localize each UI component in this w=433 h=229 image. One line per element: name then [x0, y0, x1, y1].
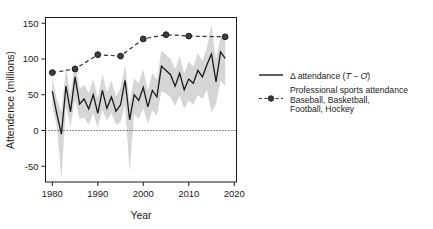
attendance-line-chart: -50050100150 19801990200020102020 Attend… [0, 0, 433, 229]
x-axis-ticks: 19801990200020102020 [42, 182, 245, 199]
data-point-marker [72, 66, 78, 72]
data-point-marker [49, 70, 55, 76]
legend-label-delta-attendance: Δ attendance (T̄ − Ō) [290, 71, 370, 81]
x-tick-label: 1980 [42, 188, 63, 199]
plot-area [46, 25, 237, 181]
data-point-marker [222, 34, 228, 40]
legend-marker-icon [268, 96, 274, 102]
y-axis-ticks: -50050100150 [23, 18, 46, 172]
legend-dashed-line-marker-key [259, 96, 283, 102]
y-tick-label: 50 [28, 89, 39, 100]
y-axis-title: Attendence (millions) [4, 51, 16, 149]
y-tick-label: -50 [25, 161, 39, 172]
chart-figure: -50050100150 19801990200020102020 Attend… [0, 0, 433, 229]
data-point-marker [186, 33, 192, 39]
data-point-marker [163, 32, 169, 38]
legend: Δ attendance (T̄ − Ō) Professional spor… [259, 71, 408, 115]
x-tick-label: 2000 [133, 188, 154, 199]
data-point-marker [118, 53, 124, 59]
data-point-marker [95, 52, 101, 58]
uncertainty-band [52, 25, 225, 181]
data-point-marker [140, 36, 146, 42]
legend-label-pro-sports-line3: Football, Hockey [290, 104, 355, 114]
legend-label-pro-sports-line1: Professional sports attendance [290, 85, 408, 95]
x-tick-label: 1990 [87, 188, 108, 199]
y-tick-label: 100 [23, 53, 39, 64]
y-tick-label: 150 [23, 18, 39, 29]
x-axis-title: Year [130, 209, 152, 221]
legend-delta-mid: − [351, 71, 361, 81]
legend-delta-suffix: ) [367, 71, 370, 81]
x-tick-label: 2010 [178, 188, 199, 199]
y-tick-label: 0 [33, 125, 38, 136]
legend-delta-prefix: Δ attendance ( [290, 71, 346, 81]
legend-label-pro-sports-line2: Baseball, Basketball, [290, 95, 370, 105]
x-tick-label: 2020 [224, 188, 245, 199]
